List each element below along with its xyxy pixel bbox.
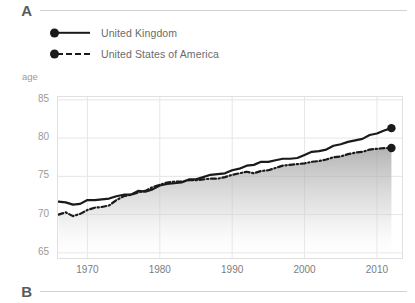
- y-axis-unit-label: age: [22, 71, 38, 82]
- legend-label-united-kingdom: United Kingdom: [101, 27, 177, 39]
- figure-panel: A United Kingdom United States of Americ…: [0, 0, 415, 303]
- legend-line-solid-icon: [57, 31, 90, 33]
- legend-marker-dashdot-icon: [50, 48, 92, 60]
- chart-svg: [57, 96, 403, 259]
- x-tick-1990: 1990: [202, 264, 262, 275]
- y-tick-75: 75: [23, 169, 49, 180]
- legend-line-dashdot-icon: [57, 53, 90, 55]
- x-tick-1970: 1970: [57, 264, 117, 275]
- section-header-a: A: [0, 2, 415, 19]
- legend-item-united-kingdom[interactable]: United Kingdom: [50, 22, 219, 43]
- section-divider-a: [40, 10, 407, 11]
- y-tick-85: 85: [23, 93, 49, 104]
- legend-marker-solid-icon: [50, 27, 92, 39]
- y-tick-80: 80: [23, 131, 49, 142]
- line-chart-plot: 6570758085: [57, 96, 403, 259]
- section-divider-b: [40, 291, 407, 292]
- y-tick-65: 65: [23, 246, 49, 257]
- chart-legend: United Kingdom United States of America: [50, 22, 219, 64]
- section-letter-a: A: [0, 2, 40, 19]
- x-tick-2000: 2000: [275, 264, 335, 275]
- section-letter-b: B: [0, 283, 40, 300]
- section-header-b: B: [0, 283, 415, 300]
- legend-item-united-states[interactable]: United States of America: [50, 43, 219, 64]
- x-tick-1980: 1980: [130, 264, 190, 275]
- x-tick-2010: 2010: [347, 264, 407, 275]
- legend-label-united-states: United States of America: [101, 48, 219, 60]
- y-tick-70: 70: [23, 208, 49, 219]
